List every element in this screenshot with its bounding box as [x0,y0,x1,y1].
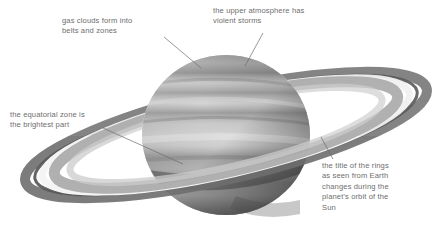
callout-gas-clouds: gas clouds form into belts and zones [62,16,180,37]
callout-ring-tilt: the title of the rings as seen from Eart… [322,161,440,213]
callout-upper-atmosphere: the upper atmosphere has violent storms [213,6,339,27]
callout-equatorial-zone: the equatorial zone is the brightest par… [10,110,126,131]
saturn-diagram: gas clouds form into belts and zones the… [0,0,448,234]
leader-line-gas-clouds [164,37,201,68]
